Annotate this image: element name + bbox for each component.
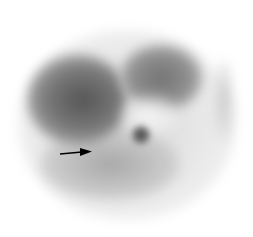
scan-image xyxy=(0,0,253,237)
arrow-icon xyxy=(0,0,253,237)
